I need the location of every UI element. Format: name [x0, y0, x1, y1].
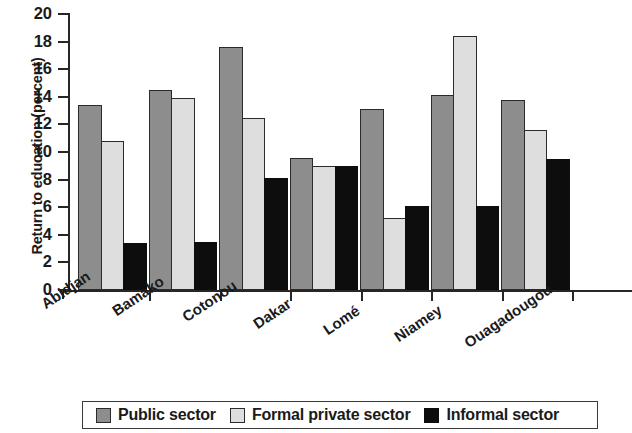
y-tick-label: 10 [22, 143, 52, 161]
bar [383, 218, 407, 290]
legend-label-formal-private-sector: Formal private sector [252, 406, 411, 424]
y-tick-label-text: 14 [26, 88, 52, 105]
bar [101, 141, 125, 290]
y-tick-label-text: 12 [26, 115, 52, 132]
x-tick-mark [361, 292, 363, 301]
y-tick-label: 18 [22, 33, 52, 51]
y-tick-label-text: 20 [26, 5, 52, 22]
x-tick-mark [431, 292, 433, 301]
legend: Public sector Formal private sector Info… [82, 401, 598, 429]
y-tick-mark [58, 206, 68, 208]
x-axis-label: Lomé [320, 302, 363, 338]
legend-item-informal-sector: Informal sector [424, 406, 559, 424]
y-tick-label-text: 6 [26, 198, 52, 215]
x-tick-mark [290, 292, 292, 301]
y-tick-mark [58, 96, 68, 98]
bar [501, 100, 525, 290]
y-tick-label-text: 2 [26, 253, 52, 270]
bar [524, 130, 548, 290]
x-tick-mark [572, 292, 574, 301]
bar [546, 159, 570, 290]
y-tick-label: 2 [22, 253, 52, 271]
y-tick-mark [58, 123, 68, 125]
bar [290, 158, 314, 290]
bar [242, 118, 266, 291]
legend-item-public-sector: Public sector [96, 406, 216, 424]
plot-area [68, 14, 632, 290]
y-tick-label: 20 [22, 5, 52, 23]
bar [312, 166, 336, 290]
y-tick-label: 12 [22, 115, 52, 133]
bar [453, 36, 477, 290]
bar [149, 90, 173, 290]
x-axis-label: Niamey [391, 301, 445, 345]
legend-label-public-sector: Public sector [118, 406, 216, 424]
bar [335, 166, 359, 290]
y-tick-label: 8 [22, 171, 52, 189]
y-tick-label-text: 10 [26, 143, 52, 160]
y-tick-label-text: 4 [26, 226, 52, 243]
y-tick-label: 16 [22, 60, 52, 78]
bar [476, 206, 500, 290]
y-tick-label: 6 [22, 198, 52, 216]
bar [264, 178, 288, 290]
bar [431, 95, 455, 290]
legend-label-informal-sector: Informal sector [446, 406, 559, 424]
y-tick-mark [58, 13, 68, 15]
legend-swatch-public-sector [96, 408, 111, 423]
legend-swatch-formal-private-sector [230, 408, 245, 423]
bar [171, 98, 195, 290]
bar [78, 105, 102, 290]
y-tick-mark [58, 151, 68, 153]
y-tick-mark [58, 261, 68, 263]
y-tick-mark [58, 234, 68, 236]
y-tick-label-text: 16 [26, 60, 52, 77]
bar [194, 242, 218, 290]
bar [219, 47, 243, 290]
x-tick-mark [502, 292, 504, 301]
y-tick-label-text: 8 [26, 171, 52, 188]
legend-item-formal-private-sector: Formal private sector [230, 406, 411, 424]
y-tick-label: 14 [22, 88, 52, 106]
y-tick-mark [58, 68, 68, 70]
y-tick-mark [58, 41, 68, 43]
bar-chart: Return to education (percent) 0246810121… [0, 0, 632, 433]
y-tick-label: 4 [22, 226, 52, 244]
y-tick-mark [58, 179, 68, 181]
x-axis-label: Dakar [250, 294, 294, 331]
bar [405, 206, 429, 290]
bar [360, 109, 384, 290]
y-tick-label-text: 18 [26, 33, 52, 50]
legend-swatch-informal-sector [424, 408, 439, 423]
